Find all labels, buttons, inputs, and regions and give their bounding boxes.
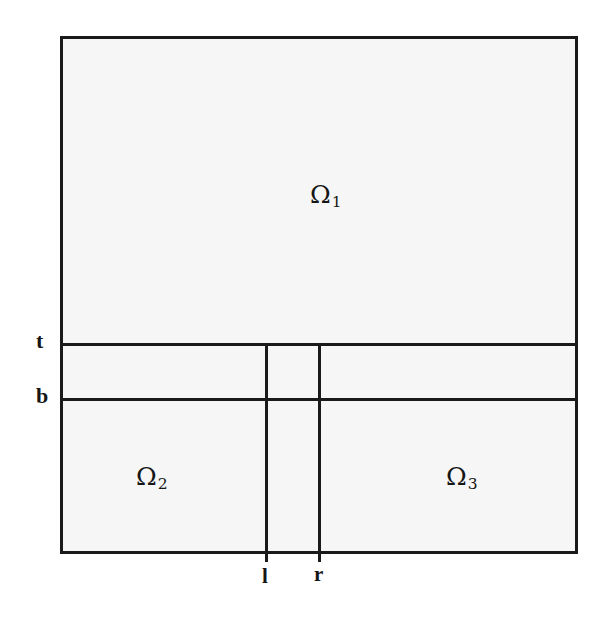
- label-t: t: [36, 330, 43, 352]
- omega-3-subscript: 3: [467, 475, 478, 493]
- interface-line-r: [318, 343, 321, 562]
- omega-3-symbol: Ω: [446, 462, 467, 491]
- outer-box-top-edge: [60, 36, 578, 39]
- label-r: r: [314, 564, 323, 585]
- omega-2-symbol: Ω: [136, 462, 157, 491]
- omega-1-symbol: Ω: [310, 180, 331, 209]
- omega-1-label: Ω1: [310, 182, 342, 211]
- omega-1-subscript: 1: [331, 193, 342, 211]
- label-l: l: [262, 566, 268, 587]
- domain-partition-figure: Ω1 Ω2 Ω3 t b l r: [0, 0, 604, 620]
- omega-2-subscript: 2: [157, 475, 168, 493]
- label-b: b: [36, 385, 48, 407]
- outer-box-left-edge: [60, 36, 63, 554]
- omega-2-label: Ω2: [136, 464, 168, 493]
- omega-3-label: Ω3: [446, 464, 478, 493]
- interface-line-l: [265, 343, 268, 562]
- outer-box-right-edge: [575, 36, 578, 554]
